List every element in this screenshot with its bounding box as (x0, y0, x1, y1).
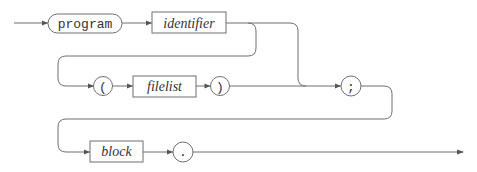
node-block: block (90, 141, 143, 162)
node-block-label: block (101, 144, 132, 159)
node-identifier-label: identifier (163, 16, 215, 31)
node-filelist: filelist (133, 76, 196, 97)
arrow-icon (42, 21, 48, 26)
node-rparen-label: ) (216, 80, 224, 95)
node-lparen-label: ( (99, 80, 107, 95)
node-semicolon: ; (341, 76, 361, 96)
syntax-diagram: program identifier ( filelist ) ; block (0, 0, 477, 172)
node-period: . (173, 142, 193, 162)
node-rparen: ) (211, 77, 230, 96)
arrow-icon (84, 150, 90, 155)
arrow-icon (167, 150, 173, 155)
node-program: program (48, 14, 122, 33)
arrow-icon (335, 84, 341, 89)
node-lparen: ( (94, 77, 113, 96)
node-program-label: program (58, 17, 113, 32)
node-identifier: identifier (152, 12, 226, 33)
node-period-label: . (179, 145, 187, 160)
node-filelist-label: filelist (147, 79, 183, 94)
arrow-icon (205, 84, 211, 89)
arrow-icon (127, 84, 133, 89)
end-arrow-icon (457, 150, 464, 155)
node-semicolon-label: ; (347, 80, 355, 95)
branch-skip-to-semicolon (248, 23, 341, 86)
arrow-icon (146, 21, 152, 26)
